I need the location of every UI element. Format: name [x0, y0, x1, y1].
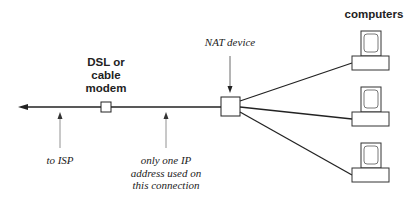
one-ip-label-line-2: address used on — [124, 167, 208, 180]
link-computer-3 — [240, 112, 352, 175]
pointer-nat-arrowhead-icon — [228, 86, 233, 93]
nat-device-label: NAT device — [200, 36, 260, 49]
modem-box — [101, 102, 111, 112]
one-ip-label-line-1: only one IP — [124, 154, 208, 167]
modem-label-line-3: modem — [78, 82, 134, 95]
pointer-to-isp-arrowhead-icon — [58, 112, 63, 119]
pointer-one-ip-arrowhead-icon — [164, 112, 169, 119]
modem-label-line-2: cable — [78, 69, 134, 82]
modem-label: DSL or cable modem — [78, 56, 134, 95]
to-isp-label: to ISP — [38, 154, 82, 167]
link-computer-2 — [240, 107, 352, 119]
one-ip-label-line-3: this connection — [124, 179, 208, 192]
computer-2 — [352, 87, 389, 126]
one-ip-label: only one IP address used on this connect… — [124, 154, 208, 192]
arrowhead-icon — [18, 104, 28, 110]
modem-label-line-1: DSL or — [78, 56, 134, 69]
computers-label: computers — [340, 8, 408, 21]
link-computer-1 — [240, 63, 352, 101]
computer-1 — [352, 31, 389, 70]
computer-3 — [352, 143, 389, 182]
nat-device-box — [221, 97, 240, 116]
